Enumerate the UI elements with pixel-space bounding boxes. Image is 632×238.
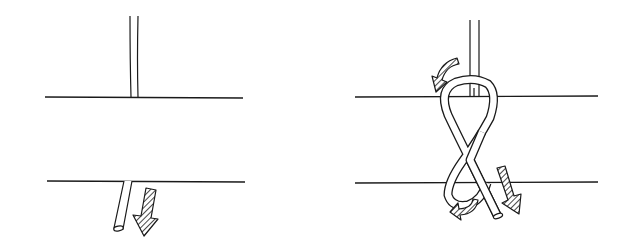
rope-standing-part bbox=[130, 16, 138, 97]
plate-bottom-line bbox=[47, 181, 245, 182]
pull-down-arrow-right-icon bbox=[497, 166, 521, 214]
rope-free-end bbox=[113, 181, 132, 232]
panel-left bbox=[45, 16, 245, 236]
panel-right bbox=[355, 20, 598, 220]
knot-diagram bbox=[0, 0, 632, 238]
plate-top-line bbox=[355, 96, 598, 97]
pull-down-arrow-icon bbox=[133, 188, 158, 236]
plate-top-line bbox=[45, 97, 243, 98]
